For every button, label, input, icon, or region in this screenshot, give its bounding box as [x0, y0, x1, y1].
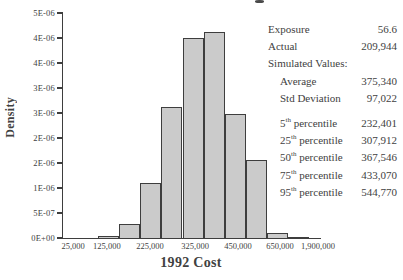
- y-tick-label: 3E-06: [0, 83, 55, 93]
- histogram-bar: [204, 32, 225, 239]
- stats-label: 25th percentile: [280, 132, 343, 149]
- y-tick-mark: [57, 112, 63, 114]
- y-tick-label: 2E-06: [0, 133, 55, 143]
- y-tick-mark: [57, 62, 63, 64]
- y-tick-mark: [57, 137, 63, 139]
- stats-row-exposure: Exposure 56.6: [268, 21, 397, 38]
- y-tick-mark: [57, 37, 63, 39]
- histogram-bar: [225, 114, 246, 238]
- y-tick-label: 5E-07: [0, 208, 55, 218]
- stats-row-percentile-5: 5th percentile 232,401: [268, 115, 397, 132]
- stats-value: 433,070: [343, 167, 397, 184]
- stats-panel: Exposure 56.6 Actual 209,944 Simulated V…: [268, 21, 397, 201]
- x-tick-label: 225,000: [136, 241, 164, 251]
- stats-value: 544,770: [343, 184, 397, 201]
- stats-value: 375,340: [316, 73, 397, 90]
- y-tick-mark: [57, 187, 63, 189]
- x-tick-label: 1,900,000: [301, 241, 335, 251]
- stats-row-std-deviation: Std Deviation 97,022: [268, 90, 397, 107]
- histogram-figure: Density 0E+005E-071E-062E-062E-063E-063E…: [0, 0, 403, 280]
- stats-value: 97,022: [341, 90, 397, 107]
- stats-row-percentile-75: 75th percentile 433,070: [268, 167, 397, 184]
- stats-row-percentile-95: 95th percentile 544,770: [268, 184, 397, 201]
- stats-row-simulated-header: Simulated Values:: [268, 55, 397, 72]
- stats-value: 367,546: [343, 149, 397, 166]
- y-tick-label: 5E-06: [0, 8, 55, 18]
- y-tick-label: 4E-06: [0, 33, 55, 43]
- stats-value: 307,912: [343, 132, 397, 149]
- x-tick-label: 325,000: [181, 241, 209, 251]
- histogram-bar: [183, 38, 204, 238]
- x-tick-label: 25,000: [61, 241, 84, 251]
- stats-row-percentile-25: 25th percentile 307,912: [268, 132, 397, 149]
- histogram-bar: [288, 237, 309, 239]
- stats-label: Average: [280, 73, 316, 90]
- y-tick-label: 2E-06: [0, 158, 55, 168]
- cropped-title-fragment: [255, 0, 264, 3]
- histogram-bar: [267, 233, 288, 239]
- y-tick-label: 1E-06: [0, 183, 55, 193]
- y-tick-mark: [57, 162, 63, 164]
- y-tick-label: 3E-06: [0, 108, 55, 118]
- y-tick-mark: [57, 237, 63, 239]
- stats-label: 95th percentile: [280, 184, 343, 201]
- stats-value: 209,944: [297, 38, 397, 55]
- stats-value: [348, 55, 397, 72]
- histogram-bar: [98, 236, 119, 238]
- stats-row-average: Average 375,340: [268, 73, 397, 90]
- y-axis-labels: 0E+005E-071E-062E-062E-063E-063E-064E-06…: [0, 0, 55, 280]
- histogram-bar: [246, 160, 267, 239]
- x-tick-label: 450,000: [224, 241, 252, 251]
- stats-label: Simulated Values:: [268, 55, 348, 72]
- y-tick-mark: [57, 12, 63, 14]
- stats-label: Actual: [268, 38, 297, 55]
- stats-label: Std Deviation: [280, 90, 341, 107]
- stats-value: 232,401: [337, 115, 397, 132]
- x-tick-label: 125,000: [93, 241, 121, 251]
- x-tick-label: 650,000: [266, 241, 294, 251]
- x-axis-title: 1992 Cost: [62, 255, 320, 271]
- histogram-bar: [161, 107, 182, 238]
- histogram-bar: [119, 224, 140, 239]
- y-tick-label: 4E-06: [0, 58, 55, 68]
- y-tick-mark: [57, 212, 63, 214]
- stats-label: 5th percentile: [280, 115, 337, 132]
- stats-value: 56.6: [310, 21, 397, 38]
- stats-row-percentile-50: 50th percentile 367,546: [268, 149, 397, 166]
- x-axis-labels: 25,000125,000225,000325,000450,000650,00…: [0, 241, 403, 253]
- stats-label: 75th percentile: [280, 167, 343, 184]
- stats-row-actual: Actual 209,944: [268, 38, 397, 55]
- y-tick-mark: [57, 87, 63, 89]
- stats-label: 50th percentile: [280, 149, 343, 166]
- histogram-bar: [140, 183, 161, 239]
- stats-label: Exposure: [268, 21, 310, 38]
